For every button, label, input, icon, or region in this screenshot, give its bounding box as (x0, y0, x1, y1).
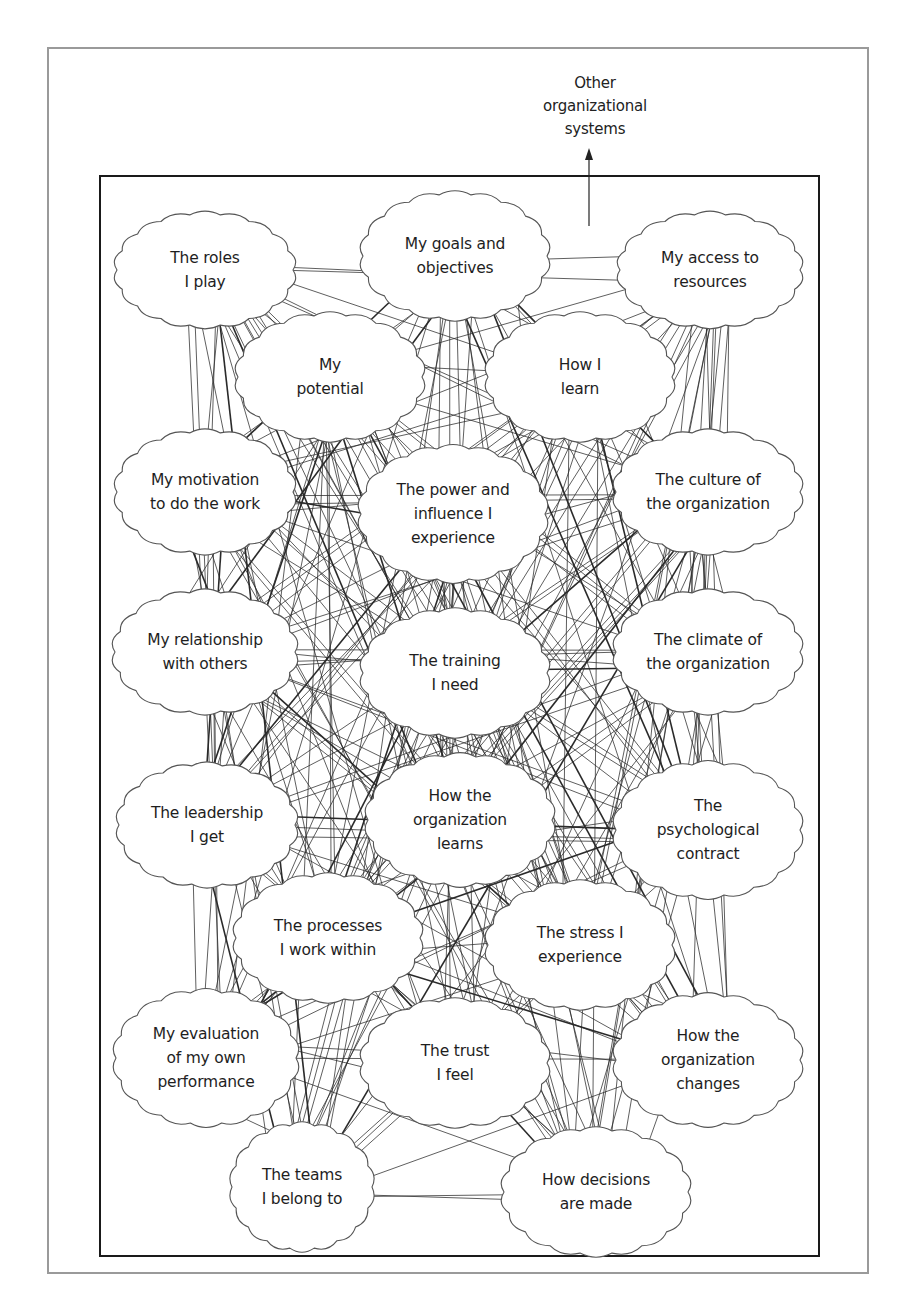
node-label-line: the organization (646, 652, 770, 676)
node-label-line: The (657, 794, 760, 818)
node-label-line: experience (396, 526, 509, 550)
node-label-line: to do the work (150, 492, 260, 516)
node-label-goals: My goals andobjectives (405, 232, 505, 280)
node-label-line: of my own (153, 1046, 259, 1070)
node-label-line: experience (537, 945, 624, 969)
node-label-line: I need (409, 673, 500, 697)
node-label-culture: The culture ofthe organization (646, 468, 770, 516)
node-label-line: performance (153, 1070, 259, 1094)
node-label-line: learn (559, 377, 601, 401)
node-label-line: How decisions (542, 1168, 650, 1192)
node-label-line: contract (657, 842, 760, 866)
connection-line (563, 432, 569, 890)
node-label-line: How I (559, 353, 601, 377)
node-label-resources: My access toresources (661, 246, 759, 294)
connection-line (439, 311, 441, 456)
node-label-line: My access to (661, 246, 759, 270)
node-label-potential: Mypotential (296, 353, 363, 401)
connection-line (296, 994, 332, 1132)
node-label-processes: The processesI work within (274, 914, 382, 962)
connection-line (575, 1001, 583, 1138)
node-label-line: The climate of (646, 628, 770, 652)
node-label-line: the organization (646, 492, 770, 516)
node-label-line: I work within (274, 938, 382, 962)
node-label-orglearns: How theorganizationlearns (413, 784, 507, 856)
node-label-line: I feel (421, 1063, 489, 1087)
node-label-line: learns (413, 832, 507, 856)
node-label-line: The teams (262, 1163, 343, 1187)
node-label-line: I get (151, 825, 263, 849)
node-label-motivation: My motivationto do the work (150, 468, 260, 516)
node-label-line: The stress I (537, 921, 624, 945)
node-label-orgchanges: How theorganizationchanges (661, 1024, 755, 1096)
node-label-learn: How Ilearn (559, 353, 601, 401)
node-label-line: psychological (657, 818, 760, 842)
node-label-line: The processes (274, 914, 382, 938)
node-label-line: The training (409, 649, 500, 673)
node-label-leadership: The leadershipI get (151, 801, 263, 849)
node-label-line: My evaluation (153, 1022, 259, 1046)
node-label-line: influence I (396, 502, 509, 526)
connection-line (265, 717, 403, 789)
node-label-line: How the (661, 1024, 755, 1048)
connection-line (293, 433, 324, 1132)
node-label-roles: The rolesI play (170, 246, 239, 294)
node-label-line: I belong to (262, 1187, 343, 1211)
connection-line (193, 878, 196, 999)
node-label-line: potential (296, 377, 363, 401)
node-label-line: changes (661, 1072, 755, 1096)
connection-line (538, 668, 629, 669)
node-label-line: organization (661, 1048, 755, 1072)
node-label-line: My goals and (405, 232, 505, 256)
node-label-decisions: How decisionsare made (542, 1168, 650, 1216)
node-label-relationship: My relationshipwith others (147, 628, 263, 676)
node-label-psych: Thepsychologicalcontract (657, 794, 760, 866)
node-label-line: are made (542, 1192, 650, 1216)
node-label-line: with others (147, 652, 263, 676)
node-label-line: The trust (421, 1039, 489, 1063)
up-arrow-icon (585, 148, 593, 226)
node-label-trust: The trustI feel (421, 1039, 489, 1087)
node-label-line: The roles (170, 246, 239, 270)
node-label-line: My motivation (150, 468, 260, 492)
node-label-evaluation: My evaluationof my ownperformance (153, 1022, 259, 1094)
node-label-line: organization (413, 808, 507, 832)
node-label-line: I play (170, 270, 239, 294)
node-label-power: The power andinfluence Iexperience (396, 478, 509, 550)
node-label-stress: The stress Iexperience (537, 921, 624, 969)
node-label-training: The trainingI need (409, 649, 500, 697)
node-label-climate: The climate ofthe organization (646, 628, 770, 676)
node-label-teams: The teamsI belong to (262, 1163, 343, 1211)
node-label-line: My relationship (147, 628, 263, 652)
node-label-line: The culture of (646, 468, 770, 492)
node-label-line: resources (661, 270, 759, 294)
node-label-line: The power and (396, 478, 509, 502)
node-label-line: objectives (405, 256, 505, 280)
node-label-line: The leadership (151, 801, 263, 825)
connection-line (693, 889, 697, 1004)
node-label-line: How the (413, 784, 507, 808)
node-label-line: My (296, 353, 363, 377)
